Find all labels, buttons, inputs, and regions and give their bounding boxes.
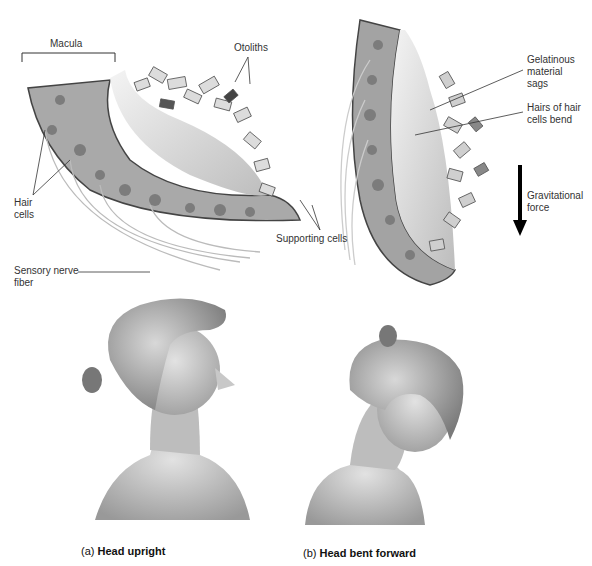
caption-b-prefix: (b) <box>303 547 316 559</box>
caption-b-text: Head bent forward <box>320 547 417 559</box>
caption-a-prefix: (a) <box>81 545 94 557</box>
label-supporting-cells: Supporting cells <box>276 233 347 245</box>
macula-tilted-tissue <box>341 20 523 285</box>
gravity-arrow-icon <box>513 165 527 236</box>
label-otoliths: Otoliths <box>234 42 268 54</box>
label-gravitational-force: Gravitational force <box>527 190 583 214</box>
caption-a-text: Head upright <box>98 545 166 557</box>
label-hair-cells: Hair cells <box>14 197 34 221</box>
caption-a: (a) Head upright <box>81 545 165 557</box>
label-macula: Macula <box>50 38 82 50</box>
anatomy-illustration <box>0 0 592 566</box>
head-upright-illustration <box>82 299 250 520</box>
caption-b: (b) Head bent forward <box>303 547 416 559</box>
label-gelatinous-material: Gelatinous material sags <box>527 54 575 90</box>
label-sensory-nerve-fiber: Sensory nerve fiber <box>14 265 78 289</box>
macula-bracket <box>22 53 115 62</box>
head-bent-illustration <box>305 325 463 525</box>
label-hairs-bend: Hairs of hair cells bend <box>527 102 581 126</box>
